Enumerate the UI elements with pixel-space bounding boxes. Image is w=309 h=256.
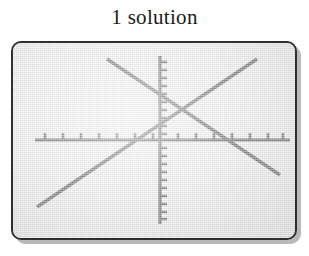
line-2-decreasing (107, 59, 280, 175)
figure-title: 1 solution (0, 2, 309, 32)
plot-area (13, 43, 297, 240)
graphing-calculator-screen (11, 41, 297, 240)
figure-container: 1 solution (0, 0, 309, 256)
line-1-increasing (37, 59, 257, 207)
